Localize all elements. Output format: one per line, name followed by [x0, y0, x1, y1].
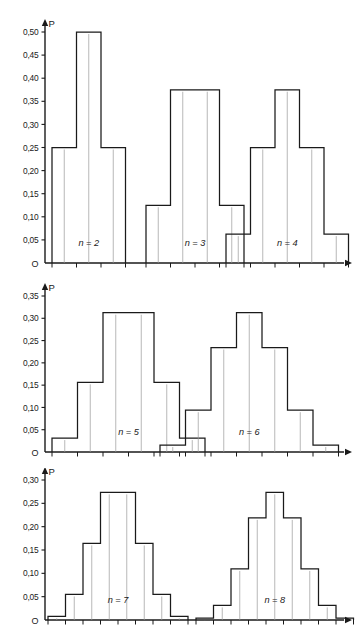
y-tick-label: 0,25 — [23, 498, 39, 508]
origin-label: O — [31, 259, 38, 269]
y-tick-label: 0,45 — [23, 50, 39, 60]
panel-top: P0,500,450,400,350,300,250,200,150,100,0… — [0, 0, 364, 280]
binomial-histograms-figure: P0,500,450,400,350,300,250,200,150,100,0… — [0, 0, 364, 639]
y-tick-label: 0,35 — [23, 291, 39, 301]
group-label-n-3: n = 3 — [185, 238, 207, 248]
y-tick-label: 0,20 — [23, 166, 39, 176]
group-label-n-4: n = 4 — [277, 238, 298, 248]
histogram-group-n-8: n = 8 — [196, 492, 354, 624]
origin-label: O — [31, 616, 38, 626]
y-tick-label: 0,35 — [23, 96, 39, 106]
plot-area-panel-middle: P0,350,300,250,200,150,100,05On = 5n = 6 — [0, 280, 364, 468]
plot-area-panel-bottom: P0,300,250,200,150,100,05On = 7n = 8 — [0, 468, 364, 639]
histogram-group-n-5: n = 5 — [52, 313, 205, 457]
histogram-group-n-6: n = 6 — [160, 313, 339, 457]
histogram-group-n-7: n = 7 — [48, 492, 188, 624]
histogram-outline — [146, 90, 244, 263]
y-axis-arrow-icon — [42, 468, 48, 474]
histogram-group-n-3: n = 3 — [146, 90, 244, 268]
y-axis-label: P — [49, 468, 55, 477]
y-tick-label: 0,25 — [23, 336, 39, 346]
y-tick-label: 0,30 — [23, 475, 39, 485]
y-axis-arrow-icon — [42, 19, 48, 26]
y-tick-label: 0,15 — [23, 545, 39, 555]
x-axis-arrow-icon — [345, 449, 352, 455]
y-tick-label: 0,50 — [23, 27, 39, 37]
panel-middle: P0,350,300,250,200,150,100,05On = 5n = 6 — [0, 280, 364, 468]
origin-label: O — [31, 448, 38, 458]
group-label-n-8: n = 8 — [264, 595, 286, 605]
y-tick-label: 0,40 — [23, 73, 39, 83]
group-label-n-2: n = 2 — [78, 238, 99, 248]
y-tick-label: 0,10 — [23, 212, 39, 222]
y-tick-label: 0,20 — [23, 522, 39, 532]
y-axis-arrow-icon — [42, 283, 48, 290]
group-label-n-6: n = 6 — [239, 427, 261, 437]
y-tick-label: 0,25 — [23, 143, 39, 153]
y-tick-label: 0,15 — [23, 189, 39, 199]
y-axis-label: P — [49, 18, 55, 29]
y-tick-label: 0,05 — [23, 592, 39, 602]
y-tick-label: 0,10 — [23, 403, 39, 413]
y-tick-label: 0,30 — [23, 313, 39, 323]
histogram-group-n-2: n = 2 — [52, 32, 126, 268]
plot-area-panel-top: P0,500,450,400,350,300,250,200,150,100,0… — [0, 0, 364, 280]
group-label-n-5: n = 5 — [118, 427, 140, 437]
y-axis-label: P — [49, 282, 55, 293]
y-tick-label: 0,30 — [23, 120, 39, 130]
y-tick-label: 0,05 — [23, 235, 39, 245]
y-tick-label: 0,20 — [23, 358, 39, 368]
y-tick-label: 0,15 — [23, 380, 39, 390]
y-tick-label: 0,05 — [23, 425, 39, 435]
panel-bottom: P0,300,250,200,150,100,05On = 7n = 8 — [0, 468, 364, 639]
y-tick-label: 0,10 — [23, 568, 39, 578]
group-label-n-7: n = 7 — [108, 595, 130, 605]
